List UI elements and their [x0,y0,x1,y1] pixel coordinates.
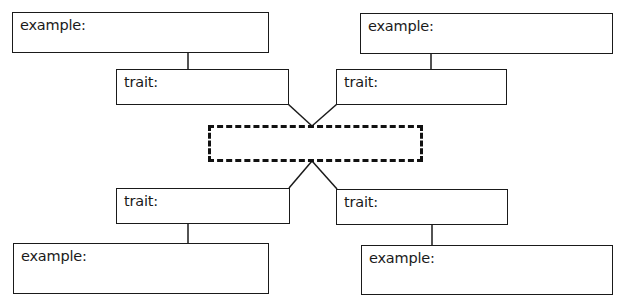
trait-box-bottom-left[interactable]: trait: [116,188,290,224]
diagonal-top-left [288,104,312,126]
example-label: example: [21,248,87,264]
trait-label: trait: [124,74,158,90]
example-box-bottom-left[interactable]: example: [13,243,269,294]
diagonal-top-right [312,104,337,126]
example-box-top-left[interactable]: example: [12,12,269,53]
trait-label: trait: [344,194,378,210]
center-concept-box[interactable] [208,125,423,162]
example-box-top-right[interactable]: example: [360,13,613,54]
trait-box-bottom-right[interactable]: trait: [336,189,508,225]
example-label: example: [368,18,434,34]
example-box-bottom-right[interactable]: example: [361,245,613,295]
diagonal-bottom-left [289,161,312,188]
trait-label: trait: [124,193,158,209]
trait-box-top-left[interactable]: trait: [116,69,289,105]
example-label: example: [20,17,86,33]
diagonal-bottom-right [312,161,337,189]
trait-label: trait: [344,74,378,90]
example-label: example: [369,250,435,266]
trait-box-top-right[interactable]: trait: [336,69,507,105]
